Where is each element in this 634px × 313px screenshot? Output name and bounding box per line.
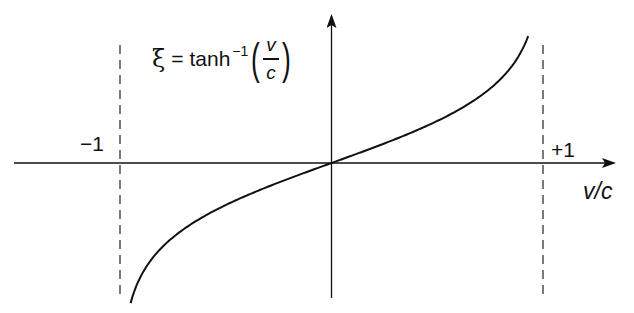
plus-one-label: +1 [551,139,575,160]
numerator: v [266,34,276,56]
plot-canvas [0,0,634,313]
close-paren: ) [282,37,291,81]
tanh-inverse-diagram: ξ = tanh −1 ( v c ) −1 +1 v/c [0,0,634,313]
x-axis-label: v/c [583,180,612,203]
minus-one-label: −1 [80,133,104,154]
tanh-text: tanh [189,47,230,71]
denominator: c [266,62,276,84]
fraction-bar [263,58,279,60]
fraction: v c [263,34,279,84]
xi-symbol: ξ [152,45,165,73]
inverse-exponent: −1 [232,43,248,59]
open-paren: ( [251,37,260,81]
equals-sign: = [171,47,183,71]
formula-label: ξ = tanh −1 ( v c ) [152,32,294,86]
